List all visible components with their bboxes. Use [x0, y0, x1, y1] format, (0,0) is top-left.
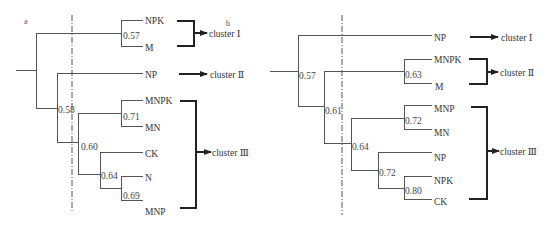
node-value: 0.72 [379, 168, 396, 178]
cluster-bracket-3: cluster Ⅲ [180, 101, 249, 208]
dendrogram-a: a 0.57 0.58 0.71 0.60 [16, 15, 249, 217]
node-value: 0.64 [101, 171, 118, 181]
node-value: 0.57 [299, 71, 316, 81]
leaf-label: NP [434, 153, 446, 163]
cluster-arrow-2: cluster Ⅱ [179, 70, 244, 80]
cluster-bracket-2: cluster Ⅱ [469, 59, 534, 84]
leaf-label: MNP [434, 104, 455, 114]
leaf-label: MN [434, 128, 449, 138]
svg-text:cluster Ⅱ: cluster Ⅱ [500, 68, 534, 78]
leaf-label: NP [145, 70, 157, 80]
cluster-bracket-3: cluster Ⅲ [469, 107, 537, 199]
svg-text:cluster Ⅲ: cluster Ⅲ [500, 147, 537, 157]
leaf-label: NP [434, 33, 446, 43]
node-value: 0.72 [405, 116, 422, 126]
node-value: 0.60 [81, 142, 98, 152]
node-value: 0.61 [325, 106, 342, 116]
leaf-label: NPK [434, 176, 453, 186]
svg-text:cluster Ⅱ: cluster Ⅱ [210, 70, 244, 80]
leaf-label: CK [434, 197, 447, 207]
dendrogram-b: 0.57 0.63 0.61 0.72 0.64 0.72 0.80 NP MN… [270, 15, 537, 215]
leaf-label: M [145, 43, 154, 53]
dendrogram-figure: a 0.57 0.58 0.71 0.60 [0, 0, 554, 231]
cluster-bracket-1: cluster Ⅰ [177, 21, 241, 46]
leaf-label: MNPK [434, 55, 462, 65]
node-value: 0.69 [123, 191, 140, 201]
panel-label-b: b [226, 19, 230, 28]
cluster-arrow-1: cluster Ⅰ [470, 33, 533, 43]
svg-text:cluster Ⅰ: cluster Ⅰ [209, 29, 241, 39]
svg-text:cluster Ⅰ: cluster Ⅰ [501, 33, 533, 43]
leaf-label: CK [145, 149, 158, 159]
node-value: 0.58 [58, 105, 75, 115]
leaf-label: MN [145, 123, 160, 133]
leaf-label: MNP [145, 207, 166, 217]
node-value: 0.57 [123, 31, 140, 41]
leaf-label: N [145, 173, 152, 183]
leaf-label: M [435, 82, 444, 92]
node-value: 0.80 [405, 186, 422, 196]
node-value: 0.64 [352, 142, 369, 152]
svg-text:cluster Ⅲ: cluster Ⅲ [212, 148, 249, 158]
leaf-label: NPK [145, 16, 164, 26]
node-value: 0.63 [405, 70, 422, 80]
panel-label-a: a [24, 17, 28, 26]
node-value: 0.71 [123, 112, 140, 122]
leaf-label: MNPK [145, 96, 173, 106]
